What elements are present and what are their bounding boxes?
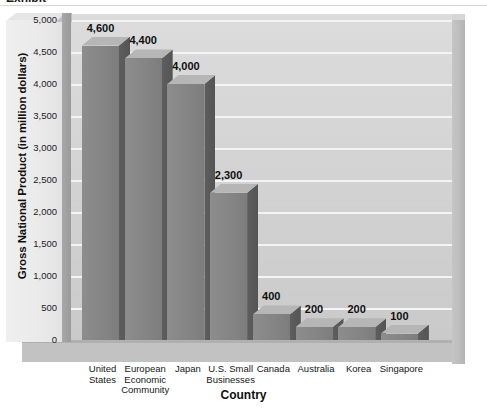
y-axis-slab-side	[62, 13, 71, 342]
bar: 4,000	[167, 75, 204, 340]
bar-front-face	[125, 58, 162, 340]
x-category-label: Singapore	[372, 364, 431, 375]
bar-front-face	[210, 193, 247, 340]
y-tick-label: 500	[6, 303, 62, 313]
top-divider	[0, 5, 487, 6]
bar: 200	[296, 318, 333, 340]
bar-value-label: 100	[373, 310, 426, 322]
bar-value-label: 4,000	[159, 60, 212, 72]
y-tick-label: 4,500	[6, 47, 62, 57]
y-tick-label: 0	[6, 335, 62, 345]
bar-front-face	[381, 334, 418, 340]
bar-value-label: 4,600	[74, 22, 127, 34]
bar-value-label: 4,400	[117, 34, 170, 46]
y-tick-label: 2,000	[6, 207, 62, 217]
corner-post	[452, 20, 465, 364]
bar: 4,400	[125, 49, 162, 340]
bar: 100	[381, 325, 418, 340]
y-tick-label: 3,500	[6, 111, 62, 121]
bar-front-face	[167, 84, 204, 340]
plot-floor-front-edge	[22, 340, 465, 343]
chart-figure: Exhibit 4,6004,4004,0002,300400200200100…	[0, 0, 487, 410]
bar: 400	[253, 305, 290, 340]
y-tick-label: 1,500	[6, 239, 62, 249]
bar: 4,600	[82, 37, 119, 340]
y-axis-slab: 5,0004,5004,0003,5003,0002,5002,0001,500…	[6, 20, 62, 342]
bar-value-label: 400	[245, 290, 298, 302]
plot-floor	[22, 340, 465, 362]
bar: 2,300	[210, 184, 247, 340]
bar-front-face	[296, 327, 333, 340]
y-tick-label: 1,000	[6, 271, 62, 281]
bar-front-face	[253, 314, 290, 340]
y-tick-label: 4,000	[6, 79, 62, 89]
x-axis-title: Country	[0, 388, 487, 402]
y-tick-label: 2,500	[6, 175, 62, 185]
bar-front-face	[338, 327, 375, 340]
y-tick-label: 5,000	[6, 15, 62, 25]
bar-front-face	[82, 46, 119, 340]
y-tick-label: 3,000	[6, 143, 62, 153]
bar-value-label: 2,300	[202, 169, 255, 181]
bar: 200	[338, 318, 375, 340]
y-axis-title: Gross National Product (in million dolla…	[16, 6, 28, 326]
